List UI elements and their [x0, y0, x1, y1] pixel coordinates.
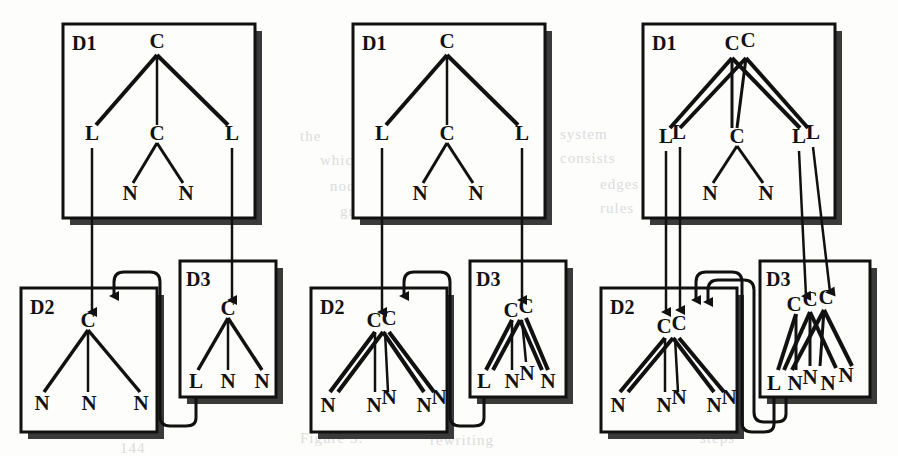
panel-3-d1-label: D1 — [652, 32, 676, 54]
panel-3-d1-node-l-right-2[interactable]: L — [806, 120, 820, 144]
panel-3-d2-node-c-1[interactable]: C — [656, 314, 671, 338]
panel-2-d2-node-c-2[interactable]: C — [381, 306, 396, 330]
panel-3-d3-label: D3 — [766, 268, 790, 290]
figure-canvas: miningthesystemofa graph iswhichconsists… — [0, 0, 898, 456]
panel-1-d2-node-n-2[interactable]: N — [81, 391, 96, 415]
panel-1: D1 C L C L N N D2 — [0, 0, 898, 456]
panel-1-d3-node-n-2[interactable]: N — [254, 369, 269, 393]
panel-2-d2-label: D2 — [320, 296, 344, 318]
panel-2-d1-node-n-2[interactable]: N — [468, 181, 483, 205]
panel-3-d2-node-c-2[interactable]: C — [671, 311, 686, 335]
panel-2-d3-node-n-1[interactable]: N — [504, 369, 519, 393]
panel-3-d1-node-c-root-1[interactable]: C — [724, 31, 739, 55]
panel-1-d1-node-l-left[interactable]: L — [85, 121, 99, 145]
panel-2-d1-node-n-1[interactable]: N — [412, 181, 427, 205]
panel-3-d1-node-l-left-2[interactable]: L — [672, 120, 686, 144]
panel-1-d2-node-c[interactable]: C — [80, 308, 95, 332]
panel-2-d1-node-c-mid[interactable]: C — [439, 121, 454, 145]
panel-3-d3-node-n-1[interactable]: N — [787, 371, 802, 395]
panel-2-d2-node-c-1[interactable]: C — [366, 308, 381, 332]
panel-2-d3-node-n-3[interactable]: N — [540, 369, 555, 393]
panel-1-d1-node-n-1[interactable]: N — [122, 181, 137, 205]
panel-2-d3-label: D3 — [476, 268, 500, 290]
panel-1-d3-node-l[interactable]: L — [189, 369, 203, 393]
panel-3-d1-node-c-mid[interactable]: C — [729, 124, 744, 148]
panel-1-d1-node-l-right[interactable]: L — [225, 121, 239, 145]
panel-3-d2-label: D2 — [610, 296, 634, 318]
panel-2-d2-node-n-2[interactable]: N — [366, 393, 381, 417]
panel-1-group: D1 C L C L N N D2 — [21, 24, 283, 439]
panel-3-d3-node-n-3[interactable]: N — [820, 371, 835, 395]
panel-2-d1-node-l-left[interactable]: L — [375, 121, 389, 145]
panel-3-d3-node-n-2[interactable]: N — [802, 365, 817, 389]
panel-3-d1-node-l-right-1[interactable]: L — [792, 124, 806, 148]
panel-3-group: D1 C C L L C L L N N — [601, 24, 877, 439]
panel-1-d1-node-c-root[interactable]: C — [149, 29, 164, 53]
panel-3-d3-node-c-1[interactable]: C — [786, 292, 801, 316]
panel-2-d2-node-n-4[interactable]: N — [416, 393, 431, 417]
panel-3-d1-node-n-2[interactable]: N — [758, 181, 773, 205]
panel-3-d1-node-l-left-1[interactable]: L — [659, 124, 673, 148]
panel-3-d3-node-n-4[interactable]: N — [838, 363, 853, 387]
panel-2-d3-node-c-2[interactable]: C — [518, 294, 533, 318]
panel-2-d1-label: D1 — [362, 32, 386, 54]
panel-3-d2-node-n-1[interactable]: N — [610, 393, 625, 417]
panel-3-d2-node-n-3[interactable]: N — [671, 385, 686, 409]
panel-3-d2-node-n-2[interactable]: N — [656, 393, 671, 417]
panel-1-d2-node-n-3[interactable]: N — [133, 391, 148, 415]
panel-2-d1-node-l-right[interactable]: L — [515, 121, 529, 145]
panel-2-d2-node-n-5[interactable]: N — [431, 385, 446, 409]
panel-1-d3-label: D3 — [186, 268, 210, 290]
panel-3-d1-node-n-1[interactable]: N — [702, 181, 717, 205]
panel-2-d3-node-c-1[interactable]: C — [503, 298, 518, 322]
panel-1-d3-node-c[interactable]: C — [220, 296, 235, 320]
panel-2-d1-node-c-root[interactable]: C — [439, 29, 454, 53]
panel-3-d3-node-c-3[interactable]: C — [818, 285, 833, 309]
panel-1-d2-node-n-1[interactable]: N — [34, 391, 49, 415]
panel-2-d2-node-n-3[interactable]: N — [381, 385, 396, 409]
panel-2-d2-node-n-1[interactable]: N — [320, 393, 335, 417]
panel-3-d1-node-c-root-2[interactable]: C — [740, 28, 755, 52]
panel-2-group: D1 C L C L N N D2 — [311, 24, 573, 439]
panel-3-d2-node-n-4[interactable]: N — [706, 393, 721, 417]
panel-1-d1-label: D1 — [72, 32, 96, 54]
panel-2-d3-node-n-2[interactable]: N — [519, 361, 534, 385]
panel-3-d3-node-l[interactable]: L — [767, 371, 781, 395]
panel-2-d3-node-l[interactable]: L — [477, 369, 491, 393]
panel-3-d2-node-n-5[interactable]: N — [721, 385, 736, 409]
panel-1-d1-node-c-mid[interactable]: C — [149, 121, 164, 145]
panel-1-d3-node-n-1[interactable]: N — [220, 369, 235, 393]
panel-1-d1-node-n-2[interactable]: N — [178, 181, 193, 205]
panel-1-d2-label: D2 — [30, 296, 54, 318]
